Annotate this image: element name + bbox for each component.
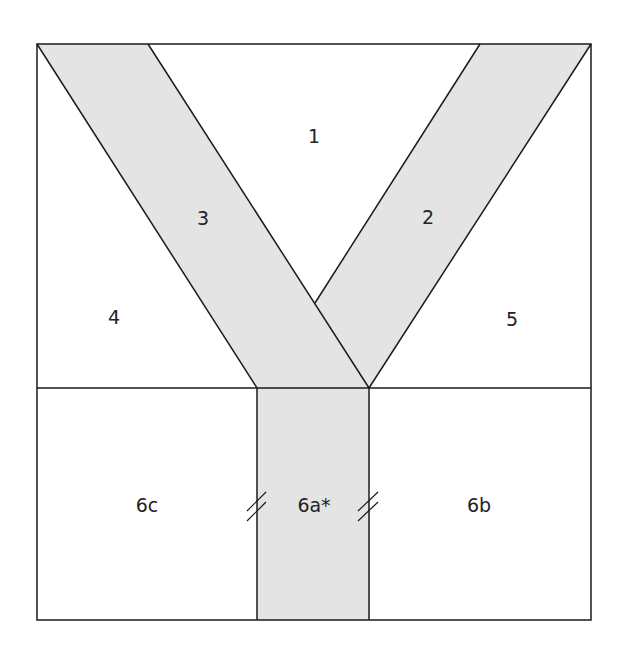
piece-2-strip: [315, 44, 591, 388]
label-piece-1: 1: [308, 125, 320, 147]
label-piece-2: 2: [422, 206, 434, 228]
label-piece-5: 5: [506, 308, 518, 330]
y-block-diagram: 1 2 3 4 5 6a* 6b 6c: [0, 0, 625, 649]
label-piece-3: 3: [197, 207, 209, 229]
label-piece-6b: 6b: [467, 494, 491, 516]
label-piece-6a: 6a*: [297, 494, 330, 516]
label-piece-4: 4: [108, 306, 120, 328]
label-piece-6c: 6c: [136, 494, 159, 516]
